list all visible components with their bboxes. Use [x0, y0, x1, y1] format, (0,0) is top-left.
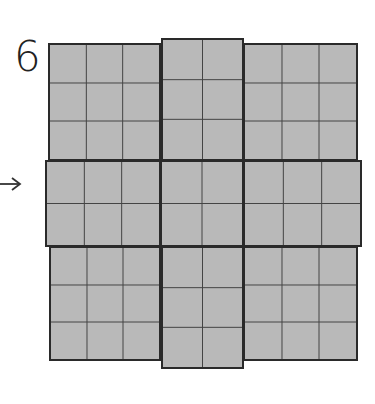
grid-block-bottom-right [243, 246, 358, 361]
grid-block-middle-right [243, 160, 362, 247]
grid-block-bottom-center [161, 246, 244, 369]
grid-block-middle-center [160, 160, 244, 247]
grid-block-top-center [161, 38, 244, 161]
grid-block-top-left [48, 43, 161, 161]
grid-block-top-right [243, 43, 358, 161]
grid-block-bottom-left [49, 246, 161, 361]
figure-number-label: 6 [14, 36, 41, 78]
right-arrow-icon [0, 174, 24, 198]
grid-block-middle-left [45, 160, 161, 247]
